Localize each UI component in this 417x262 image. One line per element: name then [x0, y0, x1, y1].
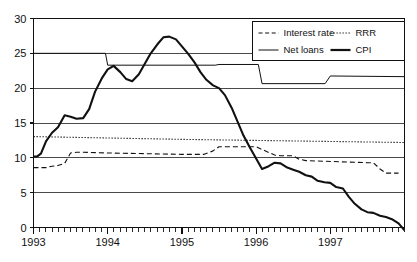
y-tick-label: 5 [20, 187, 26, 199]
x-tick-label: 1993 [21, 236, 45, 248]
legend-label-cpi: CPI [356, 44, 372, 55]
legend-label-net-loans: Net loans [284, 44, 324, 55]
y-tick-label: 10 [14, 152, 26, 164]
y-tick-label: 15 [14, 117, 26, 129]
x-tick-label: 1994 [95, 236, 119, 248]
y-tick-label: 0 [20, 222, 26, 234]
legend-label-interest-rate: Interest rate [284, 27, 335, 38]
y-tick-label: 20 [14, 82, 26, 94]
series-line-rrr [34, 137, 405, 143]
x-axis: 19931994199519961997 [21, 228, 404, 248]
y-axis: 051015202530 [14, 13, 33, 234]
y-tick-label: 25 [14, 47, 26, 59]
x-tick-label: 1997 [318, 236, 342, 248]
gridlines [34, 53, 405, 192]
legend-label-rrr: RRR [356, 27, 377, 38]
chart-container: 05101520253019931994199519961997Interest… [0, 0, 417, 262]
legend: Interest rateRRRNet loansCPI [253, 22, 405, 61]
series-line-interest-rate [34, 147, 399, 173]
series-line-cpi [34, 37, 405, 231]
line-chart: 05101520253019931994199519961997Interest… [0, 0, 417, 262]
x-tick-label: 1996 [244, 236, 268, 248]
x-tick-label: 1995 [170, 236, 194, 248]
y-tick-label: 30 [14, 13, 26, 25]
series-group [34, 37, 405, 231]
